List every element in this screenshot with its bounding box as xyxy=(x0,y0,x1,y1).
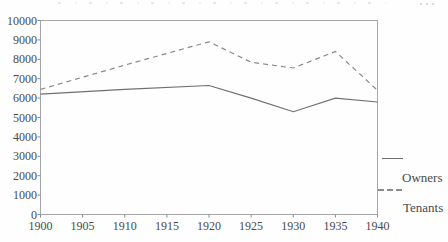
tenants-line-swatch-icon xyxy=(378,189,402,192)
legend-label-owners: Owners xyxy=(402,171,442,184)
x-tick-label: 1910 xyxy=(113,220,137,232)
y-tick-label: 9000 xyxy=(3,34,37,46)
y-tick-label: 5000 xyxy=(3,112,37,124)
x-tick-label: 1900 xyxy=(29,220,53,232)
y-tick-label: 10000 xyxy=(3,15,37,27)
x-tick-label: 1940 xyxy=(366,220,390,232)
y-tick-label: 7000 xyxy=(3,73,37,85)
plot-area xyxy=(0,0,448,242)
line-chart-figure: 10000 9000 8000 7000 6000 5000 4000 3000… xyxy=(0,0,448,242)
tenants-series-line xyxy=(41,42,378,91)
legend-label-tenants: Tenants xyxy=(403,201,443,214)
x-tick-label: 1925 xyxy=(239,220,263,232)
x-tick-label: 1930 xyxy=(281,220,305,232)
y-tick-label: 1000 xyxy=(3,189,37,201)
y-tick-label: 6000 xyxy=(3,92,37,104)
y-tick-label: 4000 xyxy=(3,131,37,143)
y-tick-label: 2000 xyxy=(3,170,37,182)
owners-series-line xyxy=(41,86,378,112)
x-tick-label: 1905 xyxy=(71,220,95,232)
owners-line-swatch-icon xyxy=(382,158,403,159)
x-tick-label: 1915 xyxy=(155,220,179,232)
y-tick-label: 8000 xyxy=(3,53,37,65)
y-tick-label: 3000 xyxy=(3,150,37,162)
x-tick-label: 1935 xyxy=(323,220,347,232)
plot-frame xyxy=(41,21,378,215)
x-tick-label: 1920 xyxy=(197,220,221,232)
